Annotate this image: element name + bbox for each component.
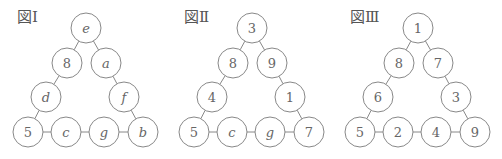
node-label: 5 <box>24 125 32 140</box>
figure-3: 187635249 <box>345 13 490 147</box>
edge <box>425 41 430 50</box>
node-label: 9 <box>268 56 276 71</box>
node-label: 8 <box>229 56 237 71</box>
node-label: 6 <box>374 90 382 105</box>
edge <box>406 41 411 50</box>
node-label: 1 <box>414 21 422 36</box>
node-label: g <box>266 125 274 140</box>
node-label: 4 <box>432 125 440 140</box>
node-label: 3 <box>452 90 460 105</box>
node-label: 3 <box>248 21 256 36</box>
node-label: 5 <box>190 125 198 140</box>
edge <box>201 110 205 118</box>
figure-1-label: 図Ⅰ <box>17 10 38 25</box>
edge <box>240 41 245 50</box>
node-label: 2 <box>394 125 402 140</box>
edge <box>279 76 283 83</box>
figure-2: 389415cg7 <box>179 13 324 147</box>
node-label: 8 <box>395 56 403 71</box>
edge <box>220 76 225 84</box>
node-label: b <box>139 125 147 140</box>
edge <box>445 76 449 83</box>
node-label: g <box>100 125 108 140</box>
node-label: 1 <box>286 90 294 105</box>
node-label: d <box>42 90 50 105</box>
edge <box>54 76 59 84</box>
node-label: 5 <box>356 125 364 140</box>
node-label: e <box>82 21 90 36</box>
node-label: c <box>228 125 236 140</box>
edge <box>386 76 391 84</box>
node-label: 4 <box>208 90 216 105</box>
edge <box>259 41 264 50</box>
triangle-diagrams-svg: e8adf5cgb389415cg7187635249 <box>0 0 502 159</box>
triangle-figures: 図Ⅰ 図Ⅱ 図Ⅲ e8adf5cgb389415cg7187635249 <box>0 0 502 159</box>
node-label: a <box>102 56 110 71</box>
node-label: 8 <box>63 56 71 71</box>
edge <box>93 41 98 50</box>
node-label: 7 <box>305 125 313 140</box>
node-label: c <box>62 125 70 140</box>
figure-3-label: 図Ⅲ <box>350 10 379 25</box>
edge <box>463 110 468 119</box>
edge <box>367 110 371 118</box>
edge <box>74 41 79 50</box>
node-label: 7 <box>434 56 442 71</box>
node-label: 9 <box>471 125 479 140</box>
edge <box>113 76 117 83</box>
edge <box>35 110 39 118</box>
figure-2-label: 図Ⅱ <box>184 10 209 25</box>
edge <box>131 110 136 119</box>
edge <box>297 110 302 119</box>
figure-1: e8adf5cgb <box>13 13 158 147</box>
